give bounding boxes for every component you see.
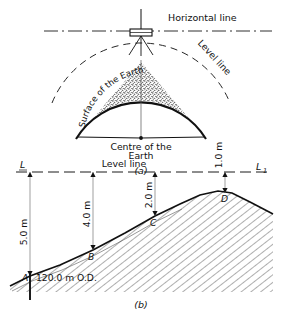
station-C: C 2.0 m <box>143 172 158 228</box>
level-line-left-label: L <box>20 159 25 170</box>
horizontal-line-label: Horizontal line <box>168 12 237 23</box>
datum-note: 120.0 m O.D. <box>36 272 97 283</box>
level-line-b-label: Level line <box>102 158 147 169</box>
svg-text:L: L <box>256 161 261 172</box>
surveying-level-instrument-icon <box>129 9 153 56</box>
arrow-head-C-top <box>152 172 157 177</box>
arrow-head-A-top <box>27 172 32 177</box>
earth-radius-left <box>78 137 141 138</box>
arrow-head-D-top <box>222 172 227 177</box>
caption-b: (b) <box>134 299 147 310</box>
figure-container: Horizontal line Level line Surface of th… <box>0 0 283 317</box>
staff-reading-D: 1.0 m <box>213 142 224 169</box>
staff-reading-B: 4.0 m <box>81 201 92 228</box>
staff-reading-A: 5.0 m <box>18 219 29 246</box>
earth-radius-right <box>141 137 205 138</box>
station-C-label: C <box>150 217 157 228</box>
station-B-label: B <box>88 251 94 262</box>
panel-a-group: Horizontal line Level line Surface of th… <box>44 9 272 176</box>
station-D-label: D <box>221 193 228 204</box>
station-A-label: A <box>21 272 28 283</box>
station-A: A 120.0 m O.D. 5.0 m <box>18 172 97 300</box>
earth-centre-dot <box>139 136 143 140</box>
station-B: B 4.0 m <box>81 172 96 262</box>
panel-b-group: L L 1 Level line A 120.0 m O.D. 5.0 m <box>10 142 273 310</box>
svg-text:1: 1 <box>263 167 267 175</box>
arrow-head-B-top <box>90 172 95 177</box>
level-line-label: Level line <box>196 37 234 77</box>
staff-reading-C: 2.0 m <box>143 182 154 209</box>
level-line-right-label: L 1 <box>256 161 267 175</box>
figure-svg: Horizontal line Level line Surface of th… <box>0 0 283 317</box>
